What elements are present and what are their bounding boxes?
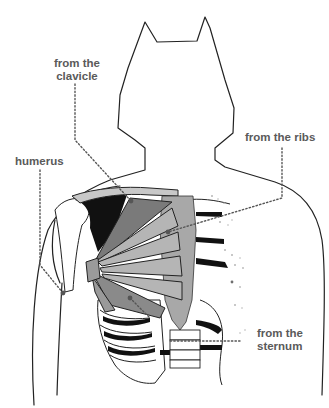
lower-sternum — [170, 330, 200, 368]
humerus-bone — [55, 198, 89, 292]
label-from-clavicle: from the clavicle — [46, 57, 108, 83]
pectoralis-diagram: from the clavicle humerus from the ribs … — [0, 0, 329, 408]
label-sternum-line1: from the — [257, 327, 303, 340]
label-clavicle-line1: from the — [46, 57, 108, 70]
label-clavicle-line2: clavicle — [46, 70, 108, 83]
insertion-tendon — [86, 258, 100, 282]
label-ribs-line1: from the ribs — [245, 131, 315, 144]
label-humerus-line1: humerus — [15, 155, 64, 168]
label-sternum-line2: sternum — [257, 340, 303, 353]
label-humerus: humerus — [15, 155, 64, 168]
label-from-sternum: from the sternum — [257, 327, 303, 353]
label-from-ribs: from the ribs — [245, 131, 315, 144]
